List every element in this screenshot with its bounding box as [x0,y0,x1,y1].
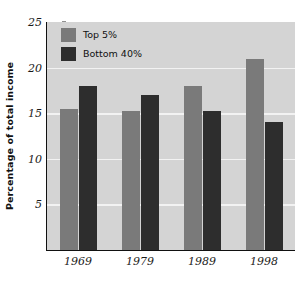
bar-1979-top5 [122,111,140,250]
y-tick-label: 5 [35,198,42,211]
legend-item-bottom40: Bottom 40% [61,47,142,61]
x-axis-line [46,250,295,251]
y-axis-title-text: Percentage of total income [4,62,15,210]
x-tick-label-1969: 1969 [64,255,92,268]
bar-1989-top5 [184,86,202,250]
x-tick-label-1989: 1989 [188,255,216,268]
bar-1979-bottom40 [141,95,159,250]
plot-area: Top 5% Bottom 40% [47,22,295,250]
y-tick-label: 15 [28,107,42,120]
legend-item-top5: Top 5% [61,28,142,42]
bar-1989-bottom40 [203,111,221,250]
y-axis-ticks: 510152025 [18,0,46,286]
x-tick-label-1979: 1979 [126,255,154,268]
legend-swatch-top5-icon [61,28,76,42]
legend-swatch-bottom40-icon [61,47,76,61]
y-tick-label: 25 [28,16,42,29]
y-tick-label: 20 [28,61,42,74]
x-tick-label-1998: 1998 [250,255,278,268]
legend-label-top5: Top 5% [83,28,117,42]
bar-1969-bottom40 [79,86,97,250]
bar-1998-bottom40 [265,122,283,250]
legend-label-bottom40: Bottom 40% [83,47,142,61]
y-axis-title: Percentage of total income [0,22,18,250]
bar-chart-figure: Percentage of total income 510152025 Top… [0,0,305,286]
bar-1969-top5 [60,109,78,250]
y-tick-label: 10 [28,152,42,165]
x-axis-ticks: 1969197919891998 [47,255,295,279]
legend: Top 5% Bottom 40% [61,28,142,61]
bar-1998-top5 [246,59,264,250]
